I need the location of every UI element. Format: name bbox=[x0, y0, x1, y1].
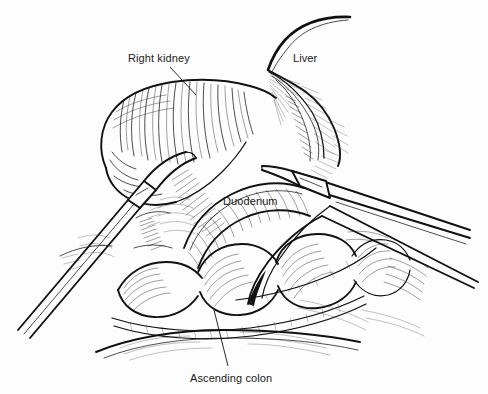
illustration-canvas: Right kidney Liver Duodenum Ascending co… bbox=[0, 0, 488, 394]
label-ascending-colon-text: Ascending colon bbox=[190, 372, 272, 384]
label-right-kidney-text: Right kidney bbox=[128, 52, 190, 64]
label-liver-text: Liver bbox=[293, 52, 318, 64]
label-duodenum-text: Duodenum bbox=[223, 195, 278, 207]
label-duodenum: Duodenum bbox=[223, 195, 278, 207]
label-liver: Liver bbox=[293, 52, 318, 64]
surgical-illustration-figure: Right kidney Liver Duodenum Ascending co… bbox=[0, 0, 488, 394]
